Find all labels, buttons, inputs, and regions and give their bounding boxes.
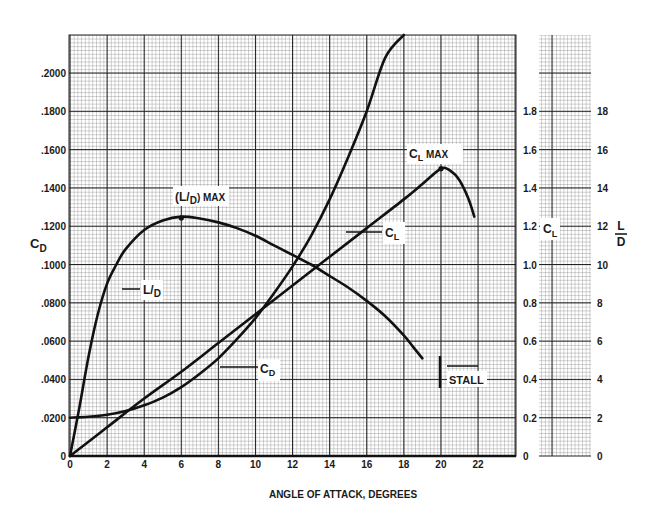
cd-tick-label: 0 [60,451,66,462]
x-tick-label: 16 [361,459,373,470]
x-tick-label: 0 [67,459,73,470]
x-tick-label: 10 [250,459,262,470]
x-tick-label: 18 [398,459,410,470]
cl-tick-label: 1.6 [523,145,537,156]
cl-tick-label: 0 [523,451,529,462]
x-tick-label: 6 [178,459,184,470]
cd-tick-label: .1000 [41,260,66,271]
chart: 0246810121416182022 0.0200.0400.0600.080… [0,0,666,531]
cd-tick-label: .1800 [41,106,66,117]
ld-tick-label: 4 [597,374,603,385]
cl-tick-label: 1.4 [523,183,537,194]
cl-tick-label: 0.2 [523,413,537,424]
cl-tick-label: 0.8 [523,298,537,309]
ld-axis-title: L D [615,219,627,249]
ld-tick-label: 6 [597,336,603,347]
cd-tick-label: .1200 [41,221,66,232]
main-plot-grid [69,35,516,456]
cl-tick-label: 1.2 [523,221,537,232]
cd-tick-label: .1400 [41,183,66,194]
svg-text:L: L [617,219,624,233]
cd-tick-label: .0200 [41,413,66,424]
ld-tick-label: 8 [597,298,603,309]
ld-tick-label: 12 [597,221,609,232]
cd-tick-label: .2000 [41,68,66,79]
ld-strip-grid [539,35,591,456]
cd-tick-label: .0600 [41,336,66,347]
x-tick-label: 20 [435,459,447,470]
x-tick-label: 12 [287,459,299,470]
ld-tick-label: 0 [597,451,603,462]
cl-tick-label: 1.0 [523,260,537,271]
x-tick-label: 22 [472,459,484,470]
x-tick-label: 14 [324,459,336,470]
x-tick-label: 2 [104,459,110,470]
ld-tick-label: 10 [597,260,609,271]
svg-text:D: D [617,235,626,249]
cd-tick-label: .0800 [41,298,66,309]
ld-tick-label: 2 [597,413,603,424]
x-tick-label: 4 [141,459,147,470]
cd-axis-ticks: 0.0200.0400.0600.0800.1000.1200.1400.160… [41,68,66,462]
cl-label-gutter [517,106,539,462]
svg-text:STALL: STALL [449,374,484,386]
x-axis-title: ANGLE OF ATTACK, DEGREES [0,489,666,500]
cl-tick-label: 0.6 [523,336,537,347]
cd-axis-title: CD [30,236,47,254]
ld-tick-label: 18 [597,106,609,117]
cl-tick-label: 1.8 [523,106,537,117]
x-tick-label: 8 [216,459,222,470]
cd-tick-label: .0400 [41,374,66,385]
ld-tick-label: 16 [597,145,609,156]
cd-tick-label: .1600 [41,145,66,156]
cl-tick-label: 0.4 [523,374,537,385]
x-axis-ticks: 0246810121416182022 [67,459,484,470]
ld-axis-ticks: 024681012141618 [597,106,609,462]
ld-tick-label: 14 [597,183,609,194]
